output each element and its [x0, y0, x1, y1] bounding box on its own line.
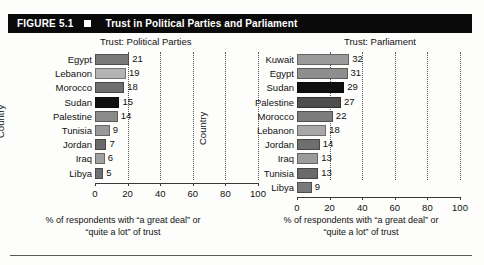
category-label: Palestine: [9, 111, 92, 122]
axis-tick-label: 20: [324, 202, 335, 213]
bar-value-label: 9: [315, 181, 320, 192]
bar-value-label: 18: [329, 124, 340, 135]
category-label: Tunisia: [9, 125, 92, 136]
x-axis-caption: % of respondents with “a great deal” or …: [246, 214, 476, 238]
bar: [297, 54, 349, 65]
y-axis-label: Country: [197, 112, 208, 145]
bar-value-label: 21: [132, 53, 143, 64]
bar-row: 27: [297, 97, 460, 108]
category-label: Iraq: [9, 153, 92, 164]
axis-tick-label: 80: [422, 202, 433, 213]
bar: [297, 139, 320, 150]
bar: [297, 153, 318, 164]
plot-area: 32Kuwait31Egypt29Sudan27Palestine22Moroc…: [297, 52, 460, 180]
category-label: Jordan: [9, 139, 92, 150]
bar-row: 32: [297, 54, 460, 65]
axis-tick-label: 20: [122, 188, 133, 199]
category-label: Jordan: [211, 139, 294, 150]
axis-tick-label: 60: [188, 188, 199, 199]
bar-row: 31: [297, 68, 460, 79]
axis-tick: [128, 183, 129, 186]
axis-tick: [395, 197, 396, 200]
bottom-divider: [10, 255, 472, 256]
category-label: Libya: [9, 168, 92, 179]
axis-tick: [460, 197, 461, 200]
bar: [297, 97, 341, 108]
category-label: Sudan: [211, 82, 294, 93]
bar-value-label: 9: [113, 124, 118, 135]
bar-row: 14: [297, 139, 460, 150]
bar-value-label: 19: [129, 67, 140, 78]
bar-value-label: 13: [321, 152, 332, 163]
white-square-icon: [84, 20, 91, 27]
bar-value-label: 14: [323, 138, 334, 149]
axis-tick: [362, 197, 363, 200]
category-label: Morocco: [9, 82, 92, 93]
bar-value-label: 27: [344, 96, 355, 107]
axis-tick: [160, 183, 161, 186]
bar-value-label: 18: [127, 81, 138, 92]
bar-value-label: 32: [352, 53, 363, 64]
axis-tick-label: 100: [452, 202, 468, 213]
axis-tick-label: 0: [294, 202, 299, 213]
bar-row: 13: [297, 153, 460, 164]
figure-title: Trust in Political Parties and Parliamen…: [105, 18, 297, 29]
bar: [297, 168, 318, 179]
bar-value-label: 14: [121, 110, 132, 121]
category-label: Palestine: [211, 97, 294, 108]
category-label: Kuwait: [211, 54, 294, 65]
axis-tick: [330, 197, 331, 200]
y-axis-label: Country: [0, 105, 6, 138]
bar-row: 29: [297, 82, 460, 93]
bar: [297, 125, 326, 136]
bar-value-label: 7: [109, 138, 114, 149]
chart-subtitle: Trust: Parliament: [344, 36, 416, 47]
chart-panel-parliament: Trust: Parliament 32Kuwait31Egypt29Sudan…: [242, 34, 482, 249]
axis-tick: [95, 183, 96, 186]
gridline: [460, 52, 461, 180]
bar: [95, 125, 110, 136]
x-axis-line: [297, 197, 460, 198]
category-label: Lebanon: [9, 68, 92, 79]
category-label: Iraq: [211, 153, 294, 164]
bar: [95, 54, 129, 65]
bar-row: 9: [297, 182, 460, 193]
bar-value-label: 13: [321, 167, 332, 178]
bar-row: 18: [297, 125, 460, 136]
chart-subtitle: Trust: Political Parties: [100, 36, 192, 47]
x-axis-caption: % of respondents with “a great deal” or …: [8, 214, 238, 238]
category-label: Egypt: [9, 54, 92, 65]
figure-page: FIGURE 5.1 Trust in Political Parties an…: [0, 0, 484, 265]
bar: [297, 111, 333, 122]
bar: [95, 68, 126, 79]
figure-number: FIGURE 5.1: [17, 18, 73, 29]
figure-header-bar: FIGURE 5.1 Trust in Political Parties an…: [8, 14, 472, 33]
bar-row: 13: [297, 168, 460, 179]
axis-tick-label: 60: [390, 202, 401, 213]
category-label: Egypt: [211, 68, 294, 79]
axis-tick: [427, 197, 428, 200]
axis-tick-label: 0: [92, 188, 97, 199]
bar: [297, 82, 344, 93]
bar-value-label: 15: [122, 96, 133, 107]
category-label: Sudan: [9, 97, 92, 108]
bar-row: 22: [297, 111, 460, 122]
category-label: Libya: [211, 182, 294, 193]
bar-value-label: 6: [108, 152, 113, 163]
axis-tick: [193, 183, 194, 186]
bar: [95, 111, 118, 122]
axis-tick-label: 40: [357, 202, 368, 213]
bar-value-label: 31: [351, 67, 362, 78]
category-label: Tunisia: [211, 168, 294, 179]
axis-tick-label: 40: [155, 188, 166, 199]
bar: [297, 182, 312, 193]
axis-tick: [297, 197, 298, 200]
bar: [95, 97, 119, 108]
bar-value-label: 22: [336, 110, 347, 121]
bar-value-label: 5: [106, 167, 111, 178]
bar: [95, 168, 103, 179]
category-label: Morocco: [211, 111, 294, 122]
category-label: Lebanon: [211, 125, 294, 136]
bar: [95, 139, 106, 150]
bar: [95, 153, 105, 164]
